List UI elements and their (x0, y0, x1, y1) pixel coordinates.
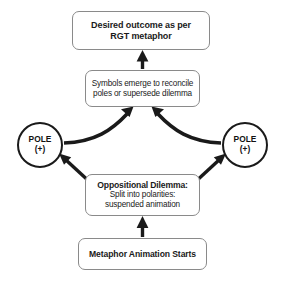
node-symbols-emerge-line2: poles or supersede dilemma (93, 89, 192, 99)
node-desired-outcome: Desired outcome as per RGT metaphor (72, 11, 210, 50)
node-desired-outcome-line1: Desired outcome as per (91, 20, 191, 31)
edge-pole-left-to-symbols (64, 107, 134, 144)
node-desired-outcome-line2: RGT metaphor (110, 31, 171, 42)
edge-symbols-to-outcome (137, 50, 149, 69)
node-oppositional-dilemma-line3: suspended animation (105, 200, 180, 210)
node-pole-right: POLE (+) (222, 122, 268, 168)
diagram-canvas: Desired outcome as per RGT metaphor Symb… (0, 0, 285, 289)
node-symbols-emerge: Symbols emerge to reconcile poles or sup… (85, 70, 200, 107)
node-oppositional-dilemma-line1: Oppositional Dilemma: (97, 180, 187, 190)
node-metaphor-start-line1: Metaphor Animation Starts (89, 249, 196, 259)
edge-metaphor-start-to-dilemma (137, 216, 149, 237)
node-pole-right-sign: (+) (240, 145, 250, 155)
node-symbols-emerge-line1: Symbols emerge to reconcile (92, 79, 194, 89)
node-oppositional-dilemma-line2: Split into polarities: (110, 190, 175, 200)
node-metaphor-start: Metaphor Animation Starts (78, 238, 207, 270)
node-pole-left: POLE (+) (17, 122, 63, 168)
node-pole-left-sign: (+) (35, 145, 45, 155)
node-oppositional-dilemma: Oppositional Dilemma: Split into polarit… (85, 174, 200, 216)
edge-pole-right-to-symbols (152, 107, 222, 144)
